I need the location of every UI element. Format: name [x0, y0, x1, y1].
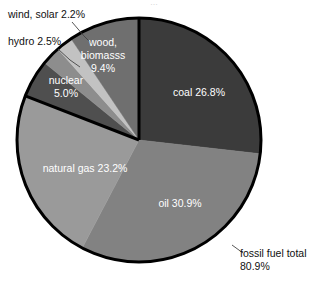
pie-label-wood-biomass-name-1: wood, [88, 36, 117, 48]
pie-label-wood-biomass-name-2: biomasss [81, 49, 125, 61]
annotation-fossil-fuel-total-line1: fossil fuel total [240, 247, 307, 259]
pie-label-hydro: hydro 2.5% [8, 35, 61, 47]
pie-label-natural-gas: natural gas 23.2% [43, 162, 128, 174]
chart-annotations: fossil fuel total 80.9% [240, 247, 307, 272]
pie-label-wood-biomass-value: 9.4% [91, 62, 115, 74]
pie-label-oil: oil 30.9% [158, 197, 201, 209]
pie-chart-svg: coal 26.8% oil 30.9% natural gas 23.2% n… [0, 0, 315, 289]
pie-chart-figure: coal 26.8% oil 30.9% natural gas 23.2% n… [0, 0, 315, 289]
pie-label-wind-solar: wind, solar 2.2% [7, 8, 85, 20]
pie-label-nuclear-value: 5.0% [54, 87, 78, 99]
annotation-fossil-fuel-total-line2: 80.9% [240, 260, 270, 272]
top-edge-artifact: … [150, 0, 168, 6]
pie-label-nuclear-name: nuclear [49, 74, 84, 86]
pie-label-coal: coal 26.8% [173, 86, 225, 98]
